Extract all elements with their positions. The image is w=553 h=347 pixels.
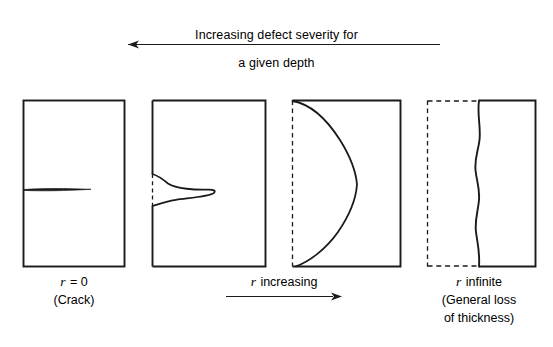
panel-crack-label-line2: (Crack) — [14, 290, 134, 308]
top-caption-line2-text: a given depth — [238, 56, 314, 70]
panel-wide-defect-graphic — [293, 101, 401, 267]
r-increasing-arrow — [226, 293, 342, 301]
top-caption-line1: Increasing defect severity for — [0, 25, 553, 43]
panel-crack-label-line2-text: (Crack) — [54, 293, 95, 307]
panel-notch-graphic — [153, 101, 266, 267]
r-increasing-label: r increasing — [204, 272, 364, 290]
panel-general-loss-label-line2: (General loss — [404, 290, 553, 308]
panel-general-loss-graphic — [428, 101, 536, 267]
panel-crack-graphic — [24, 101, 125, 267]
top-caption-line2: a given depth — [0, 53, 553, 71]
panel-general-loss-label-line3: of thickness) — [404, 308, 553, 326]
r-increasing-label-text: increasing — [257, 275, 317, 289]
defect-severity-diagram: Increasing defect severity for a given d… — [0, 0, 553, 347]
panel-general-loss-label-line1: r infinite — [404, 272, 553, 290]
top-caption-line1-text: Increasing defect severity for — [195, 28, 358, 42]
panel-crack-label-value: = 0 — [67, 275, 88, 289]
panel-general-loss-label-line2-text: (General loss — [442, 293, 516, 307]
panel-general-loss-label-value: infinite — [462, 275, 502, 289]
panel-crack-label-line1: r = 0 — [14, 272, 134, 290]
panel-general-loss-label-line3-text: of thickness) — [444, 311, 514, 325]
